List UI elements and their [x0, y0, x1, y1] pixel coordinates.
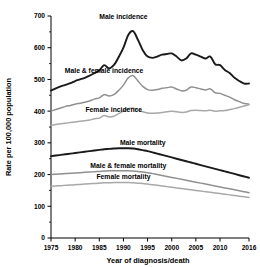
x-tick-label: 2005 — [189, 244, 204, 251]
y-tick-label: 500 — [34, 76, 45, 83]
y-tick-label: 0 — [41, 234, 45, 241]
series-label-5: Female mortality — [96, 173, 150, 181]
x-tick-label: 2016 — [242, 244, 257, 251]
x-tick-label: 1975 — [44, 244, 59, 251]
y-tick-label: 400 — [34, 108, 45, 115]
y-tick-label: 700 — [34, 12, 45, 19]
x-axis-title: Year of diagnosis/death — [107, 256, 190, 265]
series-line-0 — [51, 31, 249, 90]
series-label-0: Male incidence — [99, 13, 148, 20]
series-label-3: Male mortality — [120, 139, 166, 147]
series-line-2 — [51, 105, 249, 126]
series-label-1: Male & female incidence — [65, 67, 144, 74]
axes: 0100200300400500600700197519801985199019… — [34, 12, 257, 250]
series-label-2: Female incidence — [85, 106, 142, 113]
y-tick-label: 100 — [34, 203, 45, 210]
x-tick-label: 1990 — [116, 244, 131, 251]
chart-figure: 0100200300400500600700197519801985199019… — [0, 0, 260, 267]
line-chart: 0100200300400500600700197519801985199019… — [0, 0, 260, 267]
x-tick-label: 1995 — [140, 244, 155, 251]
x-tick-label: 2000 — [164, 244, 179, 251]
y-tick-label: 200 — [34, 171, 45, 178]
series-label-4: Male & female mortality — [90, 162, 166, 170]
y-axis-title: Rate per 100,000 population — [4, 77, 13, 176]
y-tick-label: 300 — [34, 139, 45, 146]
x-tick-label: 1980 — [68, 244, 83, 251]
series-annotations: Male incidenceMale & female incidenceFem… — [65, 13, 167, 181]
x-tick-label: 1985 — [92, 244, 107, 251]
series-line-1 — [51, 75, 249, 111]
y-tick-label: 600 — [34, 44, 45, 51]
series-line-5 — [51, 182, 249, 197]
x-tick-label: 2010 — [213, 244, 228, 251]
